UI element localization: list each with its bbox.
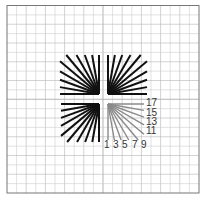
bottom-label-7: 7 (132, 140, 138, 150)
bottom-label-3: 3 (113, 140, 119, 150)
bottom-label-5: 5 (122, 140, 128, 150)
line-fan-diagram (0, 0, 203, 197)
bottom-label-9: 9 (141, 140, 147, 150)
right-label-11: 11 (146, 126, 156, 136)
fan-bottom-right (108, 104, 144, 140)
grid (7, 6, 199, 194)
bottom-label-1: 1 (104, 140, 110, 150)
